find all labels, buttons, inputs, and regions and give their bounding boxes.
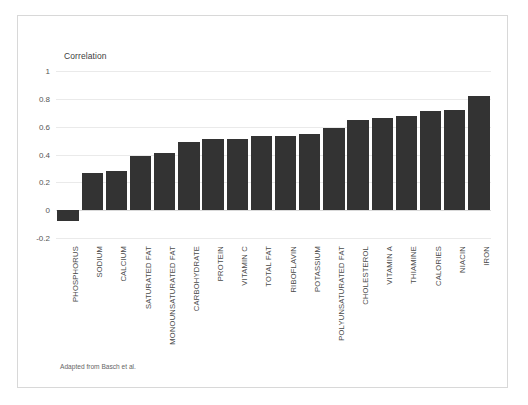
x-axis-label: VITAMIN C — [240, 246, 249, 286]
bar — [202, 139, 223, 210]
y-axis-tick-label: 0.4 — [39, 150, 50, 159]
y-axis-tick-label: 0.6 — [39, 122, 50, 131]
bar — [154, 153, 175, 210]
y-axis-tick-label: 1 — [46, 67, 50, 76]
bar — [178, 142, 199, 210]
x-axis-label: MONOUNSATURATED FAT — [168, 246, 177, 345]
bar — [251, 136, 272, 210]
x-axis-label: IRON — [482, 246, 491, 266]
x-axis-label: THIAMINE — [409, 246, 418, 284]
bar — [57, 210, 78, 221]
x-axis-label: VITAMIN A — [385, 246, 394, 285]
bar — [372, 118, 393, 210]
x-axis-label: CHOLESTEROL — [361, 246, 370, 305]
bar — [82, 173, 103, 211]
bar — [420, 111, 441, 210]
y-axis-tick-label: -0.2 — [36, 234, 50, 243]
x-axis-label: RIBOFLAVIN — [289, 246, 298, 293]
x-axis-label: NIACIN — [458, 246, 467, 273]
y-axis-tick-label: 0.2 — [39, 178, 50, 187]
x-axis-label: PHOSPHORUS — [71, 246, 80, 302]
bar — [106, 171, 127, 210]
x-axis-label: CALCIUM — [119, 246, 128, 282]
y-axis-tick-label: 0.8 — [39, 94, 50, 103]
bar — [444, 110, 465, 210]
bar — [227, 139, 248, 210]
chart-figure: Correlation 10.80.60.40.20-0.2 PHOSPHORU… — [17, 15, 508, 388]
x-axis-labels: PHOSPHORUSSODIUMCALCIUMSATURATED FATMONO… — [56, 238, 491, 358]
x-axis-label: SODIUM — [95, 246, 104, 278]
y-axis-tick-label: 0 — [46, 206, 50, 215]
x-axis-label: POTASSIUM — [313, 246, 322, 292]
x-axis-label: SATURATED FAT — [144, 246, 153, 309]
bar-series — [56, 71, 491, 238]
x-axis-label: CALORIES — [434, 246, 443, 286]
bar — [396, 116, 417, 211]
x-axis-label: POLYUNSATURATED FAT — [337, 246, 346, 341]
bar — [468, 96, 489, 210]
bar — [130, 156, 151, 210]
bar — [275, 136, 296, 210]
x-axis-label: PROTEIN — [216, 246, 225, 281]
bar — [323, 128, 344, 210]
y-axis-title: Correlation — [64, 51, 107, 61]
figure-caption: Adapted from Basch et al. — [60, 363, 136, 370]
bar — [347, 120, 368, 210]
x-axis-label: TOTAL FAT — [264, 246, 273, 287]
x-axis-label: CARBOHYDRATE — [192, 246, 201, 311]
bar — [299, 134, 320, 211]
plot-area: 10.80.60.40.20-0.2 — [56, 71, 491, 238]
